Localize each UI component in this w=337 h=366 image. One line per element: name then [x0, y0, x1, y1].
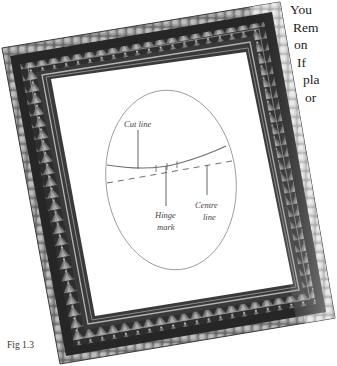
body-line: pla — [303, 71, 337, 89]
body-line: You — [290, 1, 337, 19]
label-hinge-mark-2: mark — [157, 222, 175, 232]
label-centre-line-1: Centre — [195, 200, 218, 210]
body-text-fragment: You Rem on If pla or — [290, 1, 337, 107]
body-line: or — [305, 89, 337, 107]
body-line: If — [297, 54, 337, 72]
body-line: on — [294, 36, 337, 54]
picture-frame-illustration: Cut line Hinge mark Centre line — [0, 0, 337, 366]
page: Cut line Hinge mark Centre line You Rem … — [0, 0, 337, 366]
label-cut-line: Cut line — [124, 119, 151, 129]
label-hinge-mark-1: Hinge — [154, 210, 176, 220]
label-centre-line-2: line — [203, 212, 216, 222]
body-line: Rem — [293, 19, 337, 37]
figure-caption: Fig 1.3 — [7, 340, 34, 350]
